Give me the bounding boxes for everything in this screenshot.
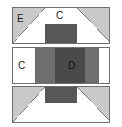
cell-bottom-left xyxy=(13,87,45,122)
cell-top-left: E xyxy=(13,8,45,43)
upper-right-triangle xyxy=(77,87,110,122)
cell-mid-left: C xyxy=(13,48,35,83)
cell-bottom-right xyxy=(77,87,110,122)
upper-half-dark xyxy=(45,87,77,103)
diagonal-split-square xyxy=(77,87,110,122)
cell-bottom-center xyxy=(45,87,77,122)
lower-half-dark xyxy=(45,24,77,43)
panel-bottom xyxy=(12,86,110,123)
upper-right-triangle xyxy=(77,8,110,43)
cell-top-center: C xyxy=(45,8,77,43)
panel-middle: C D xyxy=(12,47,110,84)
lower-half-white xyxy=(45,103,77,122)
diagonal-split-square xyxy=(13,87,45,122)
cell-mid-center: D xyxy=(55,48,85,83)
cell-mid-right xyxy=(99,48,110,83)
cell-mid-inner-left xyxy=(35,48,55,83)
upper-left-triangle xyxy=(13,87,45,122)
region-label-c-top: C xyxy=(56,11,63,21)
panel-top: E C xyxy=(12,7,110,44)
cell-mid-inner-right xyxy=(85,48,99,83)
diagonal-split-square xyxy=(77,8,110,43)
cell-top-right xyxy=(77,8,110,43)
region-label-c-middle: C xyxy=(18,61,25,71)
region-label-d: D xyxy=(68,61,75,71)
diagram-canvas: E C C D xyxy=(0,0,122,127)
region-label-e: E xyxy=(17,14,24,24)
